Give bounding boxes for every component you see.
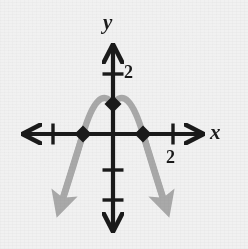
x-axis-label: x bbox=[210, 122, 221, 143]
y-axis-label: y bbox=[103, 12, 112, 33]
y-tick-label-2: 2 bbox=[124, 63, 133, 81]
point-x-intercept-right bbox=[135, 126, 152, 143]
parabola-right-arrow bbox=[143, 134, 166, 207]
x-tick-label-2: 2 bbox=[166, 148, 175, 166]
graph-figure: y x 2 2 bbox=[0, 0, 248, 249]
parabola-left-arrow bbox=[60, 134, 83, 207]
point-x-intercept-left bbox=[75, 126, 92, 143]
